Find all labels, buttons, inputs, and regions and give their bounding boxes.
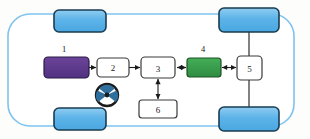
- component-6-label: 6: [156, 105, 161, 115]
- steering-wheel-hub: [105, 93, 110, 98]
- component-1-body: [44, 57, 89, 78]
- wheel-rear-right: [219, 107, 279, 131]
- component-4-body: [187, 58, 221, 77]
- powertrain-diagram: 2 3 5 6 1 4: [0, 0, 310, 139]
- component-1-battery[interactable]: [44, 57, 89, 78]
- wheel-rear-left: [219, 8, 279, 32]
- component-6-controller[interactable]: 6: [139, 100, 177, 118]
- component-5-differential[interactable]: 5: [237, 56, 262, 80]
- component-2-label: 2: [111, 63, 116, 73]
- callout-1: 1: [62, 44, 66, 54]
- component-3-label: 3: [156, 64, 161, 74]
- component-3-inverter[interactable]: 3: [141, 57, 175, 78]
- steering-wheel-icon: [96, 84, 118, 106]
- diagram-canvas: 2 3 5 6 1 4: [0, 0, 310, 139]
- component-4-motor[interactable]: [187, 58, 221, 77]
- wheel-front-left: [54, 10, 106, 32]
- wheel-front-right: [54, 108, 106, 130]
- component-5-label: 5: [247, 64, 252, 74]
- component-2-converter[interactable]: 2: [97, 58, 129, 77]
